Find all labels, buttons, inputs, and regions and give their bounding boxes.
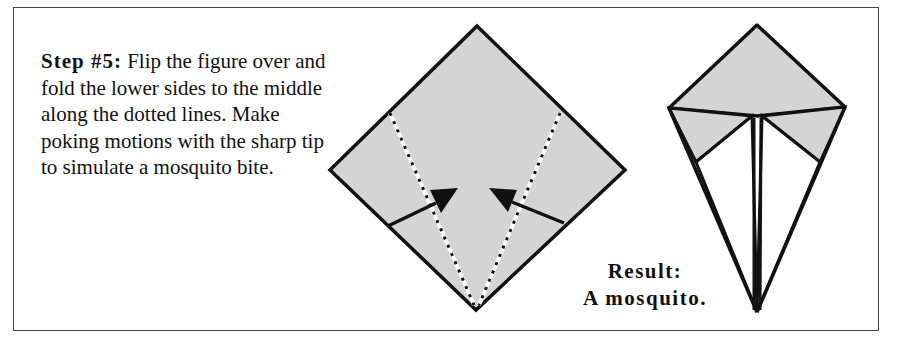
result-label: Result:	[545, 258, 745, 285]
result-name: A mosquito.	[545, 285, 745, 312]
result-mosquito	[0, 0, 901, 345]
result-caption: Result: A mosquito.	[545, 258, 745, 312]
